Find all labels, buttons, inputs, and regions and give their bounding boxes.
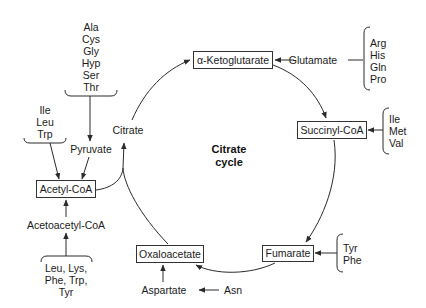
node-succinyl-coa: Succinyl-CoA: [298, 122, 367, 139]
aa-arg: Arg: [370, 37, 387, 49]
aa-gln: Gln: [370, 61, 387, 73]
aa-line-tyr: Tyr: [59, 286, 74, 298]
aa-hyp: Hyp: [82, 57, 101, 69]
group-to-acetyl-coa: Ile Leu Trp: [24, 104, 66, 179]
aa-ile-2: Ile: [389, 113, 400, 125]
arc-acetylcoa-join: [96, 168, 123, 190]
aa-ala: Ala: [83, 21, 98, 33]
group-to-glutamate: Arg His Gln Pro: [364, 27, 387, 90]
aa-ile: Ile: [39, 104, 50, 116]
aa-tyr: Tyr: [343, 242, 358, 254]
alpha-ketoglutarate-label: α-Ketoglutarate: [197, 54, 269, 66]
citrate-cycle-diagram: Citrate cycle α-Ketoglutarate Succinyl-C…: [0, 0, 426, 308]
group-to-pyruvate: Ala Cys Gly Hyp Ser Thr: [65, 21, 117, 141]
center-label-line2: cycle: [215, 156, 243, 168]
node-acetyl-coa: Acetyl-CoA: [37, 181, 96, 198]
center-label-line1: Citrate: [212, 143, 247, 155]
aa-line-leu-lys: Leu, Lys,: [45, 262, 87, 274]
oxaloacetate-label: Oxaloacetate: [139, 248, 201, 260]
arrow-group-to-acetyl-coa: [50, 143, 59, 179]
arrow-pyruvate-to-acetyl-coa: [82, 157, 89, 179]
fumarate-label: Fumarate: [266, 247, 311, 259]
aa-trp: Trp: [37, 128, 53, 140]
group-to-acetoacetyl-coa: Leu, Lys, Phe, Trp, Tyr: [41, 233, 92, 298]
succinyl-coa-label: Succinyl-CoA: [300, 124, 363, 136]
node-oxaloacetate: Oxaloacetate: [137, 246, 204, 263]
arc-oxaloacetate-to-citrate: [123, 168, 168, 244]
glutamate-label: Glutamate: [289, 54, 338, 66]
aa-gly: Gly: [83, 45, 100, 57]
aa-met: Met: [389, 125, 407, 137]
arrow-to-citrate: [123, 143, 124, 168]
arrow-succinyl-to-fumarate: [306, 140, 335, 242]
arrow-fumarate-to-oxaloacetate: [196, 263, 275, 272]
asn-label: Asn: [224, 284, 242, 296]
node-alpha-ketoglutarate: α-Ketoglutarate: [194, 52, 273, 69]
group-to-succinyl-coa: Ile Met Val: [383, 108, 407, 154]
arrow-akg-to-succinyl: [273, 65, 326, 118]
aa-pro: Pro: [370, 73, 387, 85]
aa-phe: Phe: [343, 254, 362, 266]
aa-leu: Leu: [36, 116, 54, 128]
aa-val: Val: [389, 137, 403, 149]
aa-line-phe-trp: Phe, Trp,: [45, 274, 88, 286]
group-to-fumarate: Tyr Phe: [337, 234, 362, 272]
arrow-citrate-to-akg: [132, 60, 190, 120]
aa-ser: Ser: [83, 69, 100, 81]
aa-cys: Cys: [82, 33, 100, 45]
acetyl-coa-label: Acetyl-CoA: [40, 183, 93, 195]
aspartate-label: Aspartate: [142, 284, 187, 296]
node-fumarate: Fumarate: [263, 246, 314, 262]
citrate-label: Citrate: [113, 124, 144, 136]
aa-his: His: [370, 49, 385, 61]
aa-thr: Thr: [83, 81, 99, 93]
pyruvate-label: Pyruvate: [70, 143, 112, 155]
acetoacetyl-coa-label: Acetoacetyl-CoA: [27, 219, 105, 231]
